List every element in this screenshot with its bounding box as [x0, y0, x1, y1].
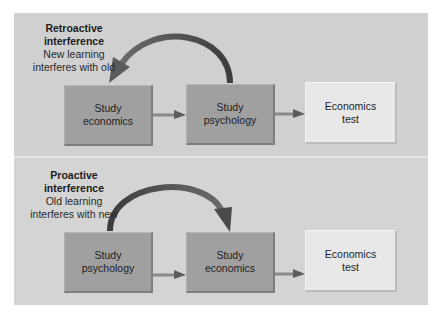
retroactive-label: Retroactive interference New learning in…	[26, 22, 122, 74]
arrow-icon	[153, 110, 186, 119]
proactive-label: Proactive interference Old learning inte…	[24, 169, 124, 221]
retroactive-desc-line1: New learning	[26, 48, 122, 61]
proactive-title-line1: Proactive	[24, 169, 124, 182]
proactive-desc-line1: Old learning	[24, 195, 124, 208]
retroactive-title-line1: Retroactive	[26, 22, 122, 35]
proactive-desc-line2: interferes with new	[24, 208, 124, 221]
box-economics-test: Economics test	[305, 82, 397, 144]
box-economics-test: Economics test	[305, 230, 397, 292]
box-study-psychology: Study psychology	[64, 232, 153, 293]
box-study-psychology: Study psychology	[186, 84, 275, 145]
retroactive-desc-line2: interferes with old	[26, 61, 122, 74]
retroactive-title-line2: interference	[26, 35, 122, 48]
arrow-icon	[275, 109, 305, 118]
arrow-icon	[153, 270, 186, 279]
box-study-economics: Study economics	[64, 85, 153, 146]
interference-diagram: Retroactive interference New learning in…	[14, 13, 428, 305]
arrow-icon	[275, 269, 305, 278]
curved-arrow-backward-icon	[109, 37, 230, 83]
curved-arrow-forward-icon	[110, 187, 232, 232]
proactive-title-line2: interference	[24, 182, 124, 195]
box-study-economics: Study economics	[186, 232, 275, 293]
